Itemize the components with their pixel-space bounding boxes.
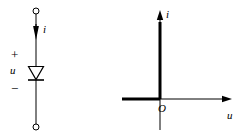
top-terminal-icon (33, 8, 39, 14)
i-axis-arrowhead-icon (157, 10, 163, 20)
figure-canvas (0, 0, 242, 138)
circuit-voltage-label: u (10, 65, 16, 76)
plot-i-axis-label: i (166, 9, 169, 20)
circuit-polarity-plus-label: + (11, 48, 18, 61)
u-axis-arrowhead-icon (222, 96, 232, 102)
current-arrow-icon (33, 24, 39, 40)
diode-triangle-icon (29, 67, 44, 80)
circuit-current-label: i (43, 24, 46, 35)
circuit-polarity-minus-label: − (11, 82, 18, 95)
diode-circuit-group (28, 8, 44, 130)
bottom-terminal-icon (33, 124, 39, 130)
iv-characteristic-group (122, 10, 232, 130)
plot-u-axis-label: u (227, 110, 233, 121)
plot-origin-label: O (158, 103, 166, 114)
